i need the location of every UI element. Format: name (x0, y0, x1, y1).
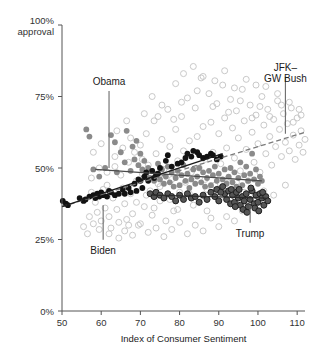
data-point (231, 218, 237, 224)
data-point (263, 151, 269, 157)
x-tick-label: 60 (96, 317, 107, 328)
data-point (231, 85, 237, 91)
data-point (247, 171, 253, 177)
data-point (87, 134, 93, 140)
data-point (122, 228, 128, 234)
data-point (104, 182, 110, 188)
data-point (108, 225, 114, 231)
data-point (124, 118, 130, 124)
data-point (198, 75, 204, 81)
y-tick-label: 75% (35, 91, 55, 102)
data-point (98, 141, 104, 147)
x-axis-title: Index of Consumer Sentiment (121, 333, 247, 344)
data-point (96, 174, 102, 180)
data-point (249, 129, 255, 135)
data-point (204, 175, 210, 181)
data-point (259, 94, 265, 100)
data-point (233, 108, 239, 114)
data-point (171, 208, 177, 214)
data-point (155, 114, 161, 120)
data-point (175, 206, 181, 212)
data-point (134, 188, 140, 194)
data-point (196, 199, 202, 205)
data-point (251, 177, 257, 183)
data-point (116, 235, 122, 241)
data-point (296, 106, 302, 112)
x-tick-label: 110 (290, 317, 305, 328)
data-point (173, 198, 179, 204)
data-point (194, 88, 200, 94)
x-tick-label: 50 (57, 317, 68, 328)
data-point (114, 206, 120, 212)
data-point (134, 138, 140, 144)
data-point (171, 116, 177, 122)
data-point (190, 202, 196, 208)
data-point (222, 68, 228, 74)
data-point (90, 221, 96, 227)
data-point (230, 179, 236, 185)
data-point (290, 119, 296, 125)
data-point (181, 71, 187, 77)
data-point (130, 232, 136, 238)
data-point (143, 131, 149, 137)
data-point (124, 216, 130, 222)
data-point (244, 209, 250, 215)
data-point (214, 178, 220, 184)
data-point (94, 209, 100, 215)
x-tick-label: 100 (250, 317, 266, 328)
data-point (224, 145, 230, 151)
data-point (188, 177, 194, 183)
data-point (235, 135, 241, 141)
data-point (265, 106, 271, 112)
data-point (200, 228, 206, 234)
data-point (202, 184, 208, 190)
data-point (249, 151, 255, 157)
data-point (112, 154, 118, 160)
data-point (228, 165, 234, 171)
data-point (286, 148, 292, 154)
data-point (204, 208, 210, 214)
data-point (163, 218, 169, 224)
data-point (118, 149, 124, 155)
data-point (263, 83, 269, 89)
x-tick-label: 70 (135, 317, 146, 328)
data-point (192, 222, 198, 228)
annotation-label-trump: Trump (236, 228, 265, 239)
data-point (128, 168, 134, 174)
data-point (204, 196, 210, 202)
data-point (186, 138, 192, 144)
data-point (216, 171, 222, 177)
data-point (83, 126, 89, 132)
y-tick-label: 25% (35, 234, 55, 245)
data-point (241, 118, 247, 124)
data-point (171, 184, 177, 190)
data-point (277, 126, 283, 132)
data-point (137, 151, 143, 157)
data-point (216, 224, 222, 230)
data-point (286, 99, 292, 105)
data-point (243, 191, 249, 197)
data-point (196, 165, 202, 171)
data-point (179, 99, 185, 105)
data-point (275, 91, 281, 97)
data-point (86, 214, 92, 220)
data-point (112, 139, 118, 145)
data-point (177, 219, 183, 225)
data-point (212, 78, 218, 84)
data-point (251, 159, 257, 165)
data-point (181, 196, 187, 202)
data-point (149, 212, 155, 218)
data-point (198, 179, 204, 185)
data-point (141, 204, 147, 210)
data-point (161, 234, 167, 240)
data-point (231, 155, 237, 161)
data-point (132, 157, 138, 163)
data-point (296, 142, 302, 148)
data-point (260, 189, 266, 195)
data-point (179, 159, 185, 165)
data-point (237, 98, 243, 104)
data-point (241, 172, 247, 178)
data-points-layer (60, 63, 308, 241)
annotation-label-jfk-gw-bush: JFK– (274, 62, 298, 73)
annotation-label-jfk-gw-bush: GW Bush (264, 73, 307, 84)
